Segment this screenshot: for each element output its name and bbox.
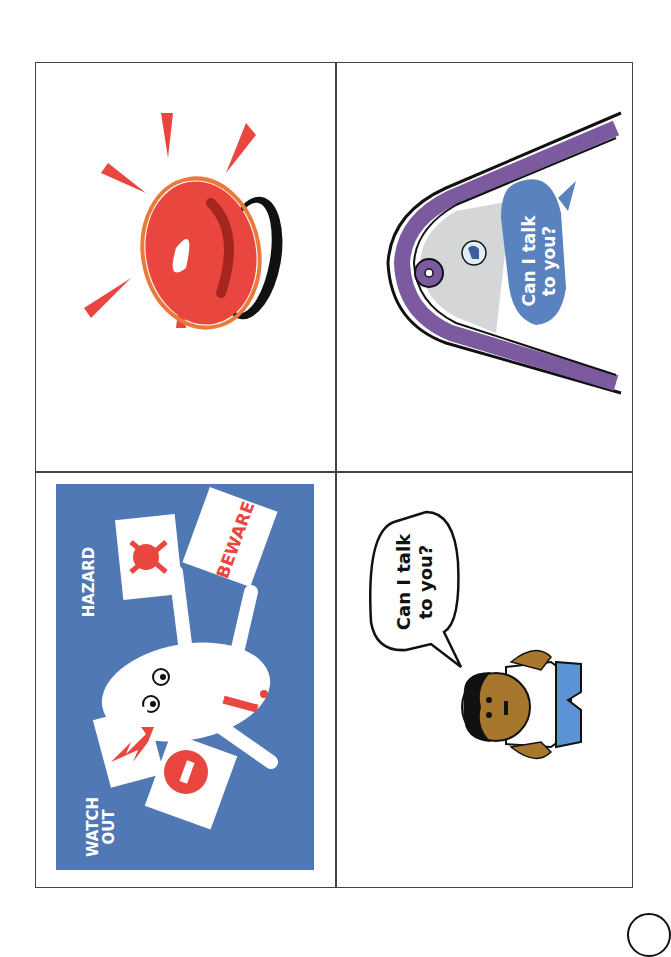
phone-bubble-line2: to you?	[539, 226, 559, 296]
card-grid: Can I talk to you? BEWARE	[35, 62, 633, 888]
out-label: OUT	[100, 809, 118, 845]
red-alarm-siren-icon	[36, 63, 335, 471]
card-alarm	[36, 63, 335, 471]
person-bubble-line1: Can I talk	[393, 533, 414, 630]
person-speaking-icon: Can I talk to you?	[336, 472, 632, 887]
phone-bubble-line1: Can I talk	[519, 215, 539, 307]
card-hazard: BEWARE	[36, 472, 335, 887]
smartphone-icon: Can I talk to you?	[336, 63, 632, 471]
page-number-circle	[627, 913, 671, 957]
person-bubble-line2: to you?	[415, 545, 436, 620]
hazard-character-icon: BEWARE	[36, 472, 335, 887]
hazard-label: HAZARD	[80, 547, 98, 618]
card-phone: Can I talk to you?	[336, 63, 632, 471]
card-person: Can I talk to you?	[336, 472, 632, 887]
